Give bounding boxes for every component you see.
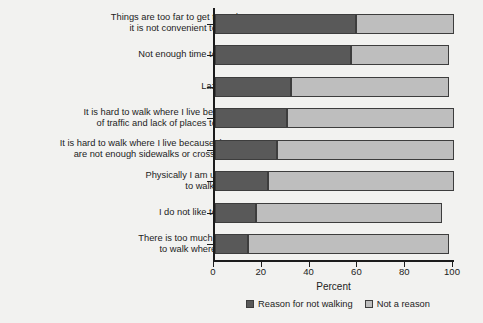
category-label: It is hard to walk where I live because …	[18, 138, 238, 160]
legend-swatch-icon	[365, 300, 373, 308]
y-axis-tick	[207, 244, 213, 245]
category-label: It is hard to walk where I live because …	[18, 107, 238, 129]
category-label: There is too much crime to walk where I …	[18, 233, 238, 255]
chart-category-row: Physically I am unable to walk more	[0, 166, 483, 198]
bar-segment	[215, 14, 356, 34]
y-axis-tick	[207, 87, 213, 88]
bar-segment	[291, 77, 449, 97]
bar-segment	[215, 140, 277, 160]
legend-label: Reason for not walking	[258, 299, 353, 309]
category-label: Not enough time to walk	[18, 49, 238, 60]
chart-category-row: There is too much crime to walk where I …	[0, 229, 483, 261]
stacked-bar	[215, 203, 442, 223]
chart-category-row: It is hard to walk where I live because …	[0, 134, 483, 166]
x-axis-tick-label: 40	[294, 266, 324, 277]
x-axis-tick-label: 100	[437, 266, 467, 277]
x-axis-title: Percent	[213, 281, 454, 292]
category-label: Laziness	[18, 81, 238, 92]
stacked-bar	[215, 234, 449, 254]
legend-label: Not a reason	[377, 299, 430, 309]
y-axis-tick	[207, 181, 213, 182]
bar-segment	[351, 45, 449, 65]
chart-legend: Reason for not walkingNot a reason	[213, 299, 463, 309]
x-axis-tick-label: 80	[389, 266, 419, 277]
category-label: I do not like to walk	[18, 207, 238, 218]
stacked-bar	[215, 108, 454, 128]
x-axis-line	[213, 260, 454, 262]
bar-segment	[256, 203, 442, 223]
bar-segment	[277, 140, 454, 160]
legend-swatch-icon	[246, 300, 254, 308]
chart-category-row: Things are too far to get to and it is n…	[0, 8, 483, 40]
stacked-bar-chart: Things are too far to get to and it is n…	[0, 0, 483, 323]
chart-category-row: Laziness	[0, 71, 483, 103]
y-axis-tick	[207, 213, 213, 214]
y-axis-tick	[207, 118, 213, 119]
x-axis-tick-label: 20	[246, 266, 276, 277]
x-axis-tick-label: 60	[341, 266, 371, 277]
stacked-bar	[215, 77, 449, 97]
stacked-bar	[215, 14, 454, 34]
stacked-bar	[215, 171, 454, 191]
x-axis-tick-label: 0	[198, 266, 228, 277]
bar-segment	[215, 234, 248, 254]
category-label: Things are too far to get to and it is n…	[18, 12, 238, 34]
bar-segment	[287, 108, 454, 128]
chart-category-row: It is hard to walk where I live because …	[0, 103, 483, 135]
stacked-bar	[215, 45, 449, 65]
legend-entry[interactable]: Reason for not walking	[246, 299, 353, 309]
chart-category-row: Not enough time to walk	[0, 40, 483, 72]
bar-segment	[356, 14, 454, 34]
y-axis-tick	[207, 24, 213, 25]
bar-segment	[215, 171, 268, 191]
bar-segment	[215, 108, 287, 128]
bar-segment	[268, 171, 454, 191]
chart-category-row: I do not like to walk	[0, 197, 483, 229]
bar-segment	[215, 77, 291, 97]
bar-segment	[248, 234, 449, 254]
y-axis-tick	[207, 150, 213, 151]
stacked-bar	[215, 140, 454, 160]
bar-segment	[215, 203, 256, 223]
legend-entry[interactable]: Not a reason	[365, 299, 430, 309]
bar-segment	[215, 45, 351, 65]
y-axis-tick	[207, 55, 213, 56]
category-label: Physically I am unable to walk more	[18, 170, 238, 192]
